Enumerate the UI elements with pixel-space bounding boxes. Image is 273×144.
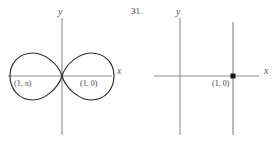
figure-page: y x (1, π) (1, 0) 31. y x (1, 0) bbox=[0, 0, 273, 144]
right-figure: y x (1, 0) bbox=[0, 0, 273, 144]
marked-point-1-0 bbox=[231, 74, 236, 79]
right-figure-canvas bbox=[0, 0, 273, 144]
right-y-axis-label: y bbox=[176, 7, 180, 17]
right-x-axis-label: x bbox=[264, 66, 268, 76]
right-point-label-1-0: (1, 0) bbox=[212, 80, 229, 88]
